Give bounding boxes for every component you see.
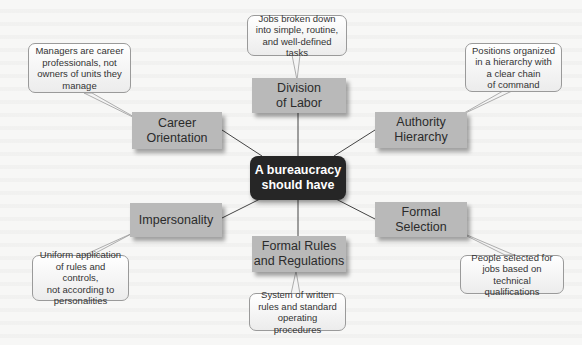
node-label: Selection [395,220,446,235]
callout-text: rules and standard [254,301,341,313]
callout-text: jobs based on [465,263,559,275]
callout-formal-selection: People selected for jobs based on techni… [460,255,564,294]
node-authority-hierarchy: Authority Hierarchy [375,112,467,148]
callout-text: System of written [254,289,341,301]
callout-text: into simple, routine, [252,24,342,36]
callout-career-orientation: Managers are career professionals, not o… [28,43,131,93]
node-label: Formal [395,205,446,220]
node-formal-rules: Formal Rules and Regulations [252,236,346,272]
callout-formal-rules: System of written rules and standard ope… [249,293,346,331]
callout-text: manage [35,80,123,92]
callout-text: operating procedures [254,312,341,335]
callout-text: Managers are career [35,45,123,57]
callout-text: of command [472,79,555,91]
central-node: A bureaucracy should have [250,156,346,200]
node-formal-selection: Formal Selection [375,202,467,237]
node-label: Formal Rules [254,239,344,254]
node-label: Authority [394,115,448,130]
callout-text: not according to [37,284,124,296]
callout-authority-hierarchy: Positions organized in a hierarchy with … [465,43,562,92]
callout-text: Jobs broken down [252,13,342,25]
central-node-line2: should have [255,178,341,193]
node-division-of-labor: Division of Labor [252,78,346,113]
central-node-line1: A bureaucracy [255,163,341,178]
node-label: and Regulations [254,254,344,269]
callout-text: owners of units they [35,68,123,80]
node-label: Impersonality [139,213,213,228]
node-label: Division [276,81,322,96]
node-label: Orientation [146,131,207,146]
callout-text: personalities [37,295,124,307]
callout-text: of rules and controls, [37,261,124,284]
callout-text: and well-defined tasks [252,36,342,59]
callout-text: professionals, not [35,57,123,69]
callout-division-of-labor: Jobs broken down into simple, routine, a… [247,15,347,56]
callout-text: technical qualifications [465,275,559,298]
callout-text: in a hierarchy with [472,56,555,68]
node-label: Career [146,116,207,131]
callout-text: Positions organized [472,45,555,57]
callout-text: People selected for [465,252,559,264]
callout-impersonality: Uniform application of rules and control… [32,255,129,301]
callout-text: a clear chain [472,68,555,80]
node-impersonality: Impersonality [130,203,222,237]
node-label: Hierarchy [394,130,448,145]
node-career-orientation: Career Orientation [132,112,222,149]
callout-text: Uniform application [37,249,124,261]
node-label: of Labor [276,96,322,111]
